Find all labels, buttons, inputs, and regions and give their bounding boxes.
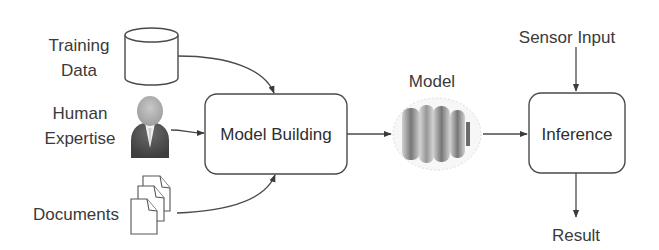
human-expertise-line2: Expertise (45, 129, 116, 148)
human-expertise-line1: Human (53, 104, 108, 123)
edge-training-to-building (178, 56, 274, 93)
result-label: Result (552, 226, 600, 245)
training-data-line2: Data (61, 61, 97, 80)
model-building-label: Model Building (220, 125, 332, 144)
model-label: Model (409, 72, 455, 91)
model-pipeline-diagram: Training Data Human Expertise Documents … (0, 0, 659, 250)
inference-node: Inference (529, 93, 625, 173)
edge-documents-to-building (177, 175, 275, 213)
sensor-input-label: Sensor Input (519, 28, 616, 47)
database-cylinder-icon (125, 28, 178, 85)
person-icon (131, 96, 169, 158)
training-data-line1: Training (49, 36, 110, 55)
model-building-node: Model Building (205, 94, 347, 174)
documents-label: Documents (33, 205, 119, 224)
model-blob-icon (393, 98, 481, 170)
documents-stack-icon (131, 176, 170, 234)
training-data-label: Training Data (49, 36, 110, 80)
inference-label: Inference (542, 125, 613, 144)
human-expertise-label: Human Expertise (45, 104, 116, 148)
edge-human-to-building (171, 130, 204, 133)
